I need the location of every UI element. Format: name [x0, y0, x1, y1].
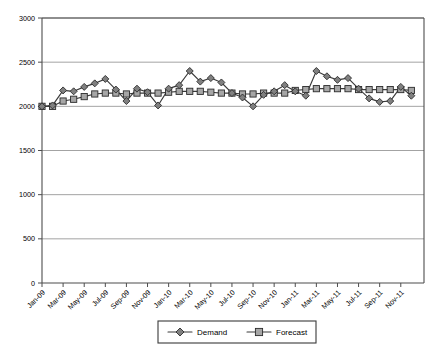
- marker-forecast-27: [324, 86, 330, 92]
- y-tick-label-3000: 3000: [19, 14, 35, 23]
- x-tick-label-5: Nov-09: [130, 288, 153, 311]
- marker-forecast-3: [71, 96, 77, 102]
- x-tick-label-12: Jan-11: [279, 288, 301, 310]
- marker-forecast-11: [155, 90, 161, 96]
- y-axis-tick-labels: 300025002000150010005000: [19, 14, 42, 288]
- marker-forecast-8: [123, 91, 129, 97]
- y-tick-label-1500: 1500: [19, 146, 35, 155]
- x-tick-label-16: Sep-11: [362, 288, 384, 310]
- marker-demand-32: [376, 98, 383, 105]
- marker-demand-2: [60, 87, 67, 94]
- x-tick-label-7: Mar-10: [172, 288, 194, 310]
- gridlines: [42, 18, 424, 239]
- marker-forecast-2: [60, 98, 66, 104]
- demand-forecast-line-chart: 300025002000150010005000 Jan-09Mar-09May…: [0, 0, 438, 361]
- marker-forecast-4: [81, 94, 87, 100]
- x-tick-label-8: May-10: [192, 288, 215, 311]
- marker-forecast-14: [187, 88, 193, 94]
- marker-demand-27: [323, 73, 330, 80]
- x-axis-tick-labels: Jan-09Mar-09May-09Jul-09Sep-09Nov-09Jan-…: [25, 283, 406, 311]
- marker-demand-16: [207, 75, 214, 82]
- data-series: [39, 68, 415, 110]
- marker-forecast-5: [92, 91, 98, 97]
- marker-forecast-26: [313, 86, 319, 92]
- x-tick-label-10: Sep-10: [235, 288, 258, 311]
- marker-forecast-15: [197, 88, 203, 94]
- x-tick-label-9: Jul-10: [217, 288, 237, 308]
- marker-forecast-31: [366, 86, 372, 92]
- legend-label-forecast: Forecast: [276, 328, 308, 337]
- x-tick-label-13: Mar-11: [299, 288, 321, 310]
- marker-forecast-6: [102, 90, 108, 96]
- chart-legend: DemandForecast: [158, 321, 316, 343]
- x-tick-label-11: Nov-10: [256, 288, 279, 311]
- marker-forecast-28: [334, 86, 340, 92]
- legend-label-demand: Demand: [197, 328, 227, 337]
- x-tick-label-1: Mar-09: [46, 288, 68, 310]
- y-tick-label-2000: 2000: [19, 102, 35, 111]
- legend-marker-forecast: [255, 328, 262, 335]
- x-tick-label-4: Sep-09: [109, 288, 132, 311]
- x-tick-label-17: Nov-11: [383, 288, 405, 310]
- x-tick-label-14: May-11: [319, 288, 342, 311]
- x-tick-label-3: Jul-09: [90, 288, 110, 308]
- x-tick-label-2: May-09: [66, 288, 89, 311]
- y-tick-label-500: 500: [23, 234, 35, 243]
- marker-demand-5: [91, 80, 98, 87]
- marker-forecast-20: [250, 91, 256, 97]
- x-tick-label-0: Jan-09: [25, 288, 47, 310]
- marker-forecast-17: [218, 90, 224, 96]
- marker-demand-4: [81, 83, 88, 90]
- marker-demand-3: [70, 88, 77, 95]
- chart-container: 300025002000150010005000 Jan-09Mar-09May…: [0, 0, 438, 361]
- marker-demand-28: [334, 76, 341, 83]
- marker-demand-25: [302, 92, 309, 99]
- x-tick-label-6: Jan-10: [152, 288, 174, 310]
- y-tick-label-1000: 1000: [19, 190, 35, 199]
- marker-forecast-16: [208, 89, 214, 95]
- marker-forecast-33: [387, 86, 393, 92]
- marker-forecast-29: [345, 86, 351, 92]
- marker-demand-26: [313, 68, 320, 75]
- y-tick-label-2500: 2500: [19, 58, 35, 67]
- y-tick-label-0: 0: [31, 279, 35, 288]
- x-tick-label-15: Jul-11: [344, 288, 364, 308]
- marker-forecast-32: [377, 86, 383, 92]
- marker-demand-23: [281, 82, 288, 89]
- marker-forecast-23: [282, 90, 288, 96]
